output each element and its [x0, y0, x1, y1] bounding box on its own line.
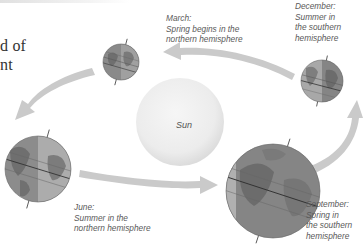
label-june-line-2: northern hemisphere [74, 223, 151, 234]
label-march: March: Spring begins in the northern hem… [166, 13, 243, 45]
label-june: June: Summer in the northern hemisphere [74, 202, 151, 234]
earth-orbit-diagram: d of nt [0, 0, 363, 246]
globe-december [299, 60, 345, 102]
globe-june [2, 136, 74, 202]
sun-label: Sun [176, 120, 192, 130]
arrow-december-to-march [163, 42, 295, 80]
label-december-line-2: the southern [295, 22, 341, 33]
label-september-line-1: Spring in [306, 210, 352, 221]
label-december-line-1: Summer in [295, 12, 341, 23]
label-june-line-1: Summer in the [74, 213, 151, 224]
label-december-month: December: [295, 1, 341, 12]
label-march-line-2: northern hemisphere [166, 34, 243, 45]
label-september-line-3: hemisphere [306, 231, 352, 242]
arrow-march-to-june [15, 68, 95, 120]
arrow-june-to-september [79, 170, 218, 194]
label-september: September: Spring in the southern hemisp… [306, 199, 352, 241]
label-march-line-1: Spring begins in the [166, 24, 243, 35]
arrow-september-to-december [305, 100, 363, 176]
label-december: December: Summer in the southern hemisph… [295, 1, 341, 43]
label-september-month: September: [306, 199, 352, 210]
label-june-month: June: [74, 202, 151, 213]
label-december-line-3: hemisphere [295, 33, 341, 44]
label-september-line-2: the southern [306, 220, 352, 231]
label-march-month: March: [166, 13, 243, 24]
